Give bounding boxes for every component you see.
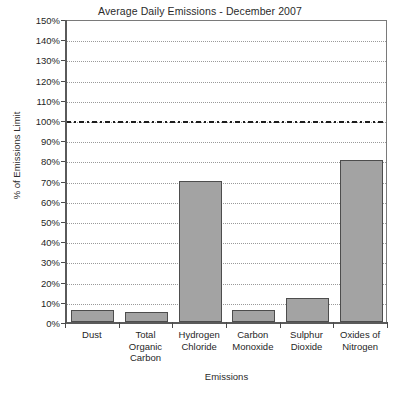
y-axis-tick-label: 150%: [0, 15, 60, 26]
x-axis-category-label: TotalOrganicCarbon: [119, 329, 173, 364]
chart-title: Average Daily Emissions - December 2007: [0, 5, 400, 17]
x-axis-tick-mark: [65, 322, 66, 328]
y-axis-tick-mark: [61, 40, 65, 41]
y-axis-tick-label: 100%: [0, 116, 60, 127]
x-axis-tick-mark: [333, 322, 334, 328]
x-axis-title: Emissions: [65, 371, 388, 382]
gridline: [66, 203, 386, 204]
bar-oxides-of-nitrogen: [340, 160, 383, 322]
gridline: [66, 41, 386, 42]
y-axis-tick-label: 110%: [0, 95, 60, 106]
bar-sulphur-dioxide: [286, 298, 329, 322]
x-axis-category-label: Dust: [65, 329, 119, 341]
y-axis-tick-mark: [61, 303, 65, 304]
y-axis-tick-label: 70%: [0, 176, 60, 187]
y-axis-tick-label: 90%: [0, 136, 60, 147]
y-axis-tick-mark: [61, 60, 65, 61]
gridline: [66, 263, 386, 264]
y-axis-tick-mark: [61, 202, 65, 203]
y-axis-tick-mark: [61, 222, 65, 223]
gridline: [66, 304, 386, 305]
x-axis-tick-mark: [119, 322, 120, 328]
y-axis-tick-label: 140%: [0, 35, 60, 46]
y-axis-tick-label: 50%: [0, 217, 60, 228]
y-axis-tick-mark: [61, 121, 65, 122]
y-axis-tick-label: 10%: [0, 297, 60, 308]
gridline: [66, 183, 386, 184]
x-axis-tick-mark: [280, 322, 281, 328]
x-axis-tick-mark: [226, 322, 227, 328]
gridline: [66, 162, 386, 163]
y-axis-spine: [65, 20, 67, 323]
y-axis-tick-mark: [61, 20, 65, 21]
y-axis-tick-label: 20%: [0, 277, 60, 288]
bar-total-organic-carbon: [125, 312, 168, 322]
x-axis-tick-mark: [172, 322, 173, 328]
y-axis-tick-mark: [61, 81, 65, 82]
y-axis-tick-mark: [61, 283, 65, 284]
emissions-limit-reference-line: [66, 121, 386, 123]
bar-hydrogen-chloride: [179, 181, 222, 322]
x-axis-category-label: HydrogenChloride: [172, 329, 226, 352]
gridline: [66, 102, 386, 103]
x-axis-category-label: CarbonMonoxide: [226, 329, 280, 352]
gridline: [66, 82, 386, 83]
x-axis-category-label: Oxides ofNitrogen: [333, 329, 387, 352]
y-axis-tick-mark: [61, 161, 65, 162]
gridline: [66, 223, 386, 224]
y-axis-tick-mark: [61, 262, 65, 263]
y-axis-tick-mark: [61, 141, 65, 142]
x-axis-category-label: SulphurDioxide: [280, 329, 334, 352]
y-axis-tick-label: 120%: [0, 75, 60, 86]
y-axis-tick-label: 80%: [0, 156, 60, 167]
y-axis-tick-mark: [61, 182, 65, 183]
bar-dust: [71, 310, 114, 322]
gridline: [66, 243, 386, 244]
y-axis-tick-label: 130%: [0, 55, 60, 66]
gridline: [66, 284, 386, 285]
plot-area: [65, 20, 387, 323]
gridline: [66, 142, 386, 143]
y-axis-tick-label: 40%: [0, 237, 60, 248]
y-axis-tick-label: 0%: [0, 318, 60, 329]
bar-carbon-monoxide: [232, 310, 275, 322]
x-axis-tick-mark: [387, 322, 388, 328]
emissions-bar-chart: Average Daily Emissions - December 2007 …: [0, 0, 400, 395]
gridline: [66, 61, 386, 62]
y-axis-tick-label: 60%: [0, 196, 60, 207]
y-axis-tick-mark: [61, 101, 65, 102]
y-axis-tick-mark: [61, 242, 65, 243]
y-axis-tick-label: 30%: [0, 257, 60, 268]
